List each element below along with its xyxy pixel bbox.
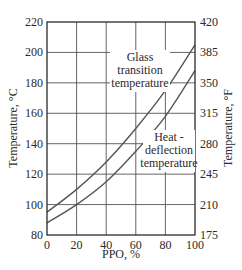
y-axis-right-ticks: 175210245280315350385420 bbox=[200, 15, 218, 242]
y-axis-right-title: Temperature, °F bbox=[221, 89, 235, 167]
y-right-tick-label: 420 bbox=[200, 15, 218, 29]
y-right-tick-label: 245 bbox=[200, 167, 218, 181]
y-left-tick-label: 220 bbox=[25, 15, 43, 29]
y-right-tick-label: 350 bbox=[200, 76, 218, 90]
annotation-line: Glass bbox=[127, 50, 154, 64]
x-tick-label: 80 bbox=[159, 238, 171, 252]
annotation-line: temperature bbox=[111, 76, 168, 90]
y-left-tick-label: 120 bbox=[25, 167, 43, 181]
y-left-tick-label: 180 bbox=[25, 76, 43, 90]
x-tick-label: 0 bbox=[44, 238, 50, 252]
y-right-tick-label: 210 bbox=[200, 198, 218, 212]
ppo-temperature-chart: 80100120140160180200220 1752102452803153… bbox=[0, 0, 242, 270]
y-left-tick-label: 200 bbox=[25, 45, 43, 59]
y-left-tick-label: 80 bbox=[31, 228, 43, 242]
annotation-line: Heat - bbox=[154, 130, 184, 144]
annotation-heat-deflection: Heat -deflectiontemperature bbox=[140, 130, 197, 172]
y-right-tick-label: 315 bbox=[200, 106, 218, 120]
annotation-line: transition bbox=[117, 63, 162, 77]
x-tick-label: 100 bbox=[186, 238, 204, 252]
y-axis-left-ticks: 80100120140160180200220 bbox=[25, 15, 43, 242]
y-left-tick-label: 100 bbox=[25, 198, 43, 212]
annotation-line: temperature bbox=[140, 156, 197, 170]
annotation-glass-transition: Glasstransitiontemperature bbox=[110, 50, 170, 92]
x-tick-label: 20 bbox=[71, 238, 83, 252]
annotation-line: deflection bbox=[145, 143, 193, 157]
y-left-tick-label: 160 bbox=[25, 106, 43, 120]
y-right-tick-label: 385 bbox=[200, 45, 218, 59]
y-left-tick-label: 140 bbox=[25, 137, 43, 151]
y-axis-left-title: Temperature, °C bbox=[6, 88, 20, 167]
x-axis-title: PPO, % bbox=[102, 247, 140, 261]
y-right-tick-label: 280 bbox=[200, 137, 218, 151]
